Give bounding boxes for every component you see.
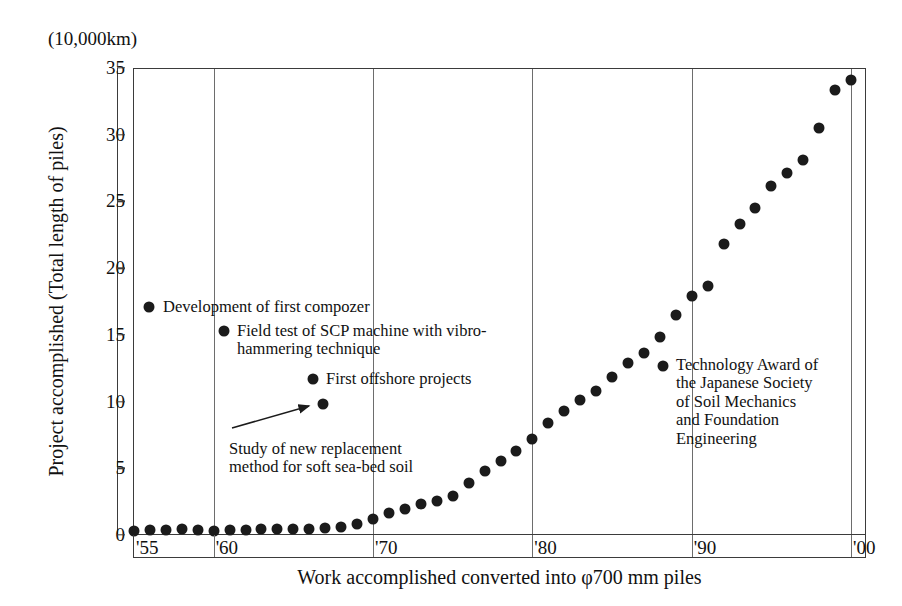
y-tick-mark <box>117 134 125 135</box>
x-tick-label: '55 <box>133 537 158 559</box>
data-point <box>447 490 458 501</box>
annotation-bullet-technology-award <box>658 361 669 372</box>
data-point <box>160 524 171 535</box>
data-point <box>734 218 745 229</box>
data-point <box>702 281 713 292</box>
y-axis-title: Project accomplished (Total length of pi… <box>45 72 68 532</box>
y-tick-mark <box>117 401 125 402</box>
data-point <box>479 465 490 476</box>
x-tick-label: '90 <box>691 537 716 559</box>
annotation-bullet-development-first-compozer <box>144 302 155 313</box>
y-tick-mark <box>117 534 125 535</box>
data-point <box>511 445 522 456</box>
data-point <box>638 348 649 359</box>
data-point <box>144 524 155 535</box>
data-point <box>830 85 841 96</box>
data-point <box>304 523 315 534</box>
data-point <box>431 496 442 507</box>
annotation-field-test-scp-machine: Field test of SCP machine with vibro- ha… <box>237 322 487 359</box>
data-point <box>750 202 761 213</box>
data-point <box>495 456 506 467</box>
data-point <box>352 518 363 529</box>
annotation-study-new-replacement-method: Study of new replacement method for soft… <box>229 440 413 477</box>
data-point <box>686 290 697 301</box>
data-point <box>256 524 267 535</box>
data-point <box>670 309 681 320</box>
annotation-first-offshore-projects: First offshore projects <box>326 370 471 388</box>
data-point <box>336 522 347 533</box>
data-point <box>591 385 602 396</box>
y-tick-mark <box>117 201 125 202</box>
annotation-technology-award: Technology Award of the Japanese Society… <box>676 356 818 448</box>
annotation-bullet-study-new-replacement-method <box>318 399 329 410</box>
data-point <box>320 522 331 533</box>
data-point <box>288 523 299 534</box>
x-axis-title: Work accomplished converted into φ700 mm… <box>133 566 866 589</box>
annotation-bullet-first-offshore-projects <box>308 374 319 385</box>
data-point <box>527 433 538 444</box>
data-point <box>798 154 809 165</box>
data-point <box>463 477 474 488</box>
data-point <box>272 524 283 535</box>
chart-root: (10,000km) Project accomplished (Total l… <box>0 0 902 606</box>
data-point <box>176 523 187 534</box>
x-tick-label: '00 <box>850 537 875 559</box>
data-point <box>415 498 426 509</box>
y-axis-ticks: 05101520253035 <box>70 0 125 606</box>
data-point <box>368 513 379 524</box>
data-point <box>575 394 586 405</box>
data-point <box>240 524 251 535</box>
data-point <box>224 524 235 535</box>
data-point <box>846 74 857 85</box>
y-tick-mark <box>117 468 125 469</box>
x-gridline <box>692 69 693 534</box>
data-point <box>814 122 825 133</box>
data-point <box>192 524 203 535</box>
data-point <box>654 332 665 343</box>
x-axis-tick-band <box>133 535 866 558</box>
annotation-development-first-compozer: Development of first compozer <box>163 298 370 316</box>
x-tick-label: '60 <box>213 537 238 559</box>
data-point <box>383 508 394 519</box>
data-point <box>622 357 633 368</box>
data-point <box>782 168 793 179</box>
y-tick-mark <box>117 334 125 335</box>
y-tick-mark <box>117 67 125 68</box>
y-tick-mark <box>117 267 125 268</box>
data-point <box>559 405 570 416</box>
data-point <box>399 504 410 515</box>
data-point <box>718 238 729 249</box>
data-point <box>607 372 618 383</box>
data-point <box>766 181 777 192</box>
x-tick-label: '80 <box>531 537 556 559</box>
data-point <box>543 417 554 428</box>
x-gridline <box>532 69 533 534</box>
annotation-bullet-field-test-scp-machine <box>219 326 230 337</box>
x-tick-label: '70 <box>372 537 397 559</box>
x-gridline <box>851 69 852 534</box>
